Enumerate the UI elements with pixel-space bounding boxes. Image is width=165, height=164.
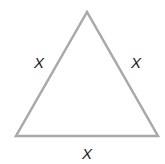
left-side-label: X [33, 54, 45, 71]
triangle-svg: X X X [0, 0, 165, 164]
triangle-shape [16, 12, 158, 136]
bottom-side-label: X [81, 145, 93, 162]
right-side-label: X [130, 54, 142, 71]
triangle-diagram: X X X [0, 0, 165, 164]
